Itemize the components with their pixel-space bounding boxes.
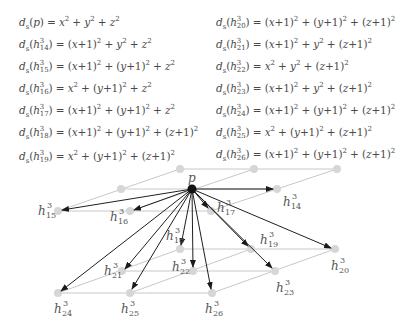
svg-text:21: 21 <box>112 271 122 280</box>
svg-text:3: 3 <box>47 201 52 210</box>
label-h21: h321 <box>104 261 122 280</box>
label-h15: h315 <box>38 201 56 220</box>
svg-text:3: 3 <box>130 299 135 308</box>
svg-text:h: h <box>110 210 118 224</box>
svg-text:3: 3 <box>119 207 124 216</box>
arrow-to-h15 <box>62 189 192 210</box>
source-node-p <box>188 185 197 194</box>
svg-text:3: 3 <box>292 192 297 201</box>
arrow-to-h22 <box>192 189 193 267</box>
svg-text:23: 23 <box>284 288 294 297</box>
svg-text:h: h <box>166 229 174 243</box>
svg-text:3: 3 <box>214 299 219 308</box>
label-h24: h324 <box>54 299 72 318</box>
svg-text:14: 14 <box>291 202 301 211</box>
svg-text:26: 26 <box>213 309 223 318</box>
svg-text:h: h <box>172 260 180 274</box>
label-h14: h314 <box>283 192 301 211</box>
svg-text:h: h <box>38 204 46 218</box>
svg-text:h: h <box>283 195 291 209</box>
svg-text:h: h <box>54 302 62 316</box>
svg-text:3: 3 <box>269 230 274 239</box>
svg-text:h: h <box>217 201 225 215</box>
label-h22: h322 <box>172 257 190 276</box>
svg-text:3: 3 <box>340 256 345 265</box>
svg-text:19: 19 <box>268 240 278 249</box>
svg-text:h: h <box>260 233 268 247</box>
label-h16: h316 <box>110 207 128 226</box>
svg-text:h: h <box>104 264 112 278</box>
svg-text:h: h <box>331 259 339 273</box>
svg-text:18: 18 <box>174 236 184 245</box>
svg-text:3: 3 <box>181 257 186 266</box>
label-h17: h317 <box>217 198 235 217</box>
label-h23: h323 <box>276 278 294 297</box>
svg-text:20: 20 <box>339 266 349 275</box>
svg-text:3: 3 <box>175 226 180 235</box>
svg-text:16: 16 <box>118 217 128 226</box>
bottom-layer-nodes <box>54 245 339 297</box>
label-h19: h319 <box>260 230 278 249</box>
svg-text:25: 25 <box>129 309 139 318</box>
label-h20: h320 <box>331 256 349 275</box>
svg-text:3: 3 <box>63 299 68 308</box>
svg-text:h: h <box>121 302 129 316</box>
svg-text:3: 3 <box>226 198 231 207</box>
label-h26: h326 <box>205 299 223 318</box>
svg-text:h: h <box>276 281 284 295</box>
label-h25: h325 <box>121 299 139 318</box>
svg-text:3: 3 <box>113 261 118 270</box>
svg-text:3: 3 <box>285 278 290 287</box>
svg-text:17: 17 <box>225 208 235 217</box>
label-h18: h318 <box>166 226 184 245</box>
label-p: p <box>188 171 196 185</box>
svg-text:22: 22 <box>180 267 190 276</box>
svg-text:h: h <box>205 302 213 316</box>
svg-text:24: 24 <box>62 309 72 318</box>
svg-text:15: 15 <box>46 211 56 220</box>
